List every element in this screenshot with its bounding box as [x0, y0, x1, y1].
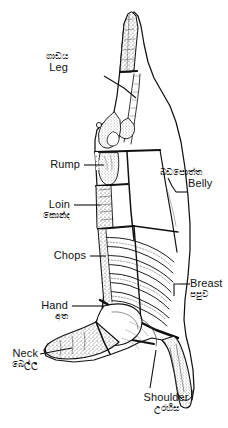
- label-shoulder-english: Shoulder: [118, 392, 214, 403]
- label-loin-sinhala: කොන්ද: [2, 211, 70, 220]
- label-belly-sinhala: බඩපොත්ත: [160, 168, 212, 177]
- label-rump: Rump: [2, 159, 80, 170]
- label-chops: Chops: [2, 250, 86, 261]
- leader-shoulder: [150, 350, 156, 388]
- label-neck-english: Neck: [2, 348, 38, 359]
- label-loin-english: Loin: [2, 199, 70, 210]
- label-leg: ගාඩය Leg: [2, 52, 68, 73]
- label-loin: Loin කොන්ද: [2, 199, 70, 220]
- label-belly-english: Belly: [188, 178, 212, 189]
- label-breast-english: Breast: [190, 278, 222, 289]
- label-shoulder: Shoulder උරහිස: [118, 392, 214, 413]
- label-neck-sinhala: බෙල්ල: [2, 360, 38, 369]
- label-shoulder-sinhala: උරහිස: [118, 404, 214, 413]
- label-leg-english: Leg: [2, 62, 68, 73]
- label-neck: Neck බෙල්ල: [2, 348, 38, 369]
- label-leg-sinhala: ගාඩය: [2, 52, 68, 61]
- label-breast-sinhala: පපුව: [190, 290, 222, 299]
- label-hand-english: Hand: [2, 300, 68, 311]
- label-chops-english: Chops: [2, 250, 86, 261]
- label-rump-english: Rump: [2, 159, 80, 170]
- label-hand: Hand අත: [2, 300, 68, 321]
- label-belly: බඩපොත්ත Belly: [160, 168, 212, 189]
- label-breast: Breast පපුව: [190, 278, 222, 299]
- label-hand-sinhala: අත: [2, 312, 68, 321]
